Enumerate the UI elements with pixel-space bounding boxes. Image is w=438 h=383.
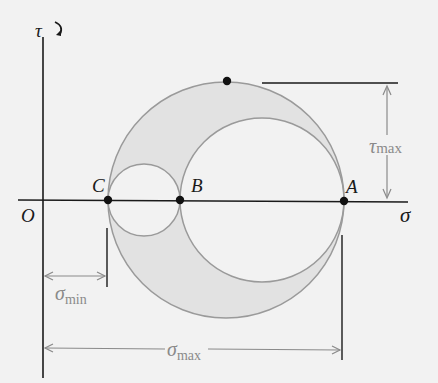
point-A-label: A [346,177,358,196]
tau-max-label: τmax [369,136,402,156]
sigma-min-label: σmin [55,283,87,303]
point-C-label: C [92,176,105,195]
sigma-axis-label: σ [400,205,410,226]
sigma-max-label: σmax [167,339,201,359]
tau-axis-label: τ [35,21,42,40]
shaded-region [0,0,438,383]
point-A [340,197,348,205]
point-tau-max [223,77,231,85]
origin-label: O [21,206,35,225]
mohr-circle-diagram: τ σ O C B A τmax σmin σmax [0,0,438,383]
diagram-canvas [0,0,438,383]
point-B-label: B [191,176,203,195]
point-B [176,196,184,204]
point-C [104,196,112,204]
